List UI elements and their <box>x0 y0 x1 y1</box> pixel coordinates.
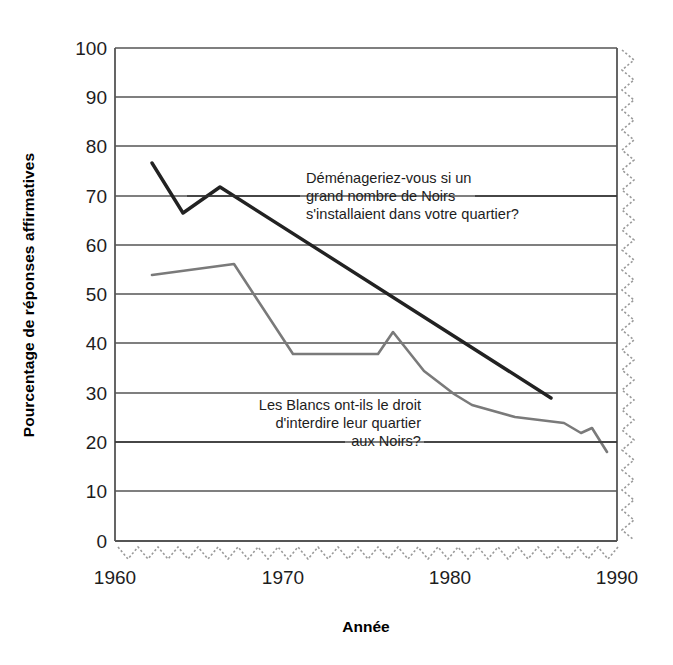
y-axis-title: Pourcentage de réponses affirmatives <box>20 153 37 437</box>
y-tick-20: 20 <box>86 432 107 453</box>
y-tick-80: 80 <box>86 136 107 157</box>
y-tick-0: 0 <box>96 531 107 552</box>
x-tick-1980: 1980 <box>429 567 471 588</box>
y-tick-40: 40 <box>86 333 107 354</box>
x-tick-1960: 1960 <box>94 567 136 588</box>
x-tick-1970: 1970 <box>262 567 304 588</box>
annotation-top-line2: grand nombre de Noirs <box>306 188 455 204</box>
x-tick-1990: 1990 <box>596 567 638 588</box>
x-axis-title: Année <box>342 618 390 635</box>
y-tick-30: 30 <box>86 383 107 404</box>
y-tick-90: 90 <box>86 87 107 108</box>
y-tick-10: 10 <box>86 481 107 502</box>
annotation-bottom-line3: aux Noirs? <box>351 433 421 449</box>
y-tick-70: 70 <box>86 186 107 207</box>
y-tick-50: 50 <box>86 284 107 305</box>
y-tick-60: 60 <box>86 235 107 256</box>
y-tick-100: 100 <box>75 38 107 59</box>
chart-figure: 100 90 80 70 60 50 40 30 20 10 0 1960 19… <box>0 0 673 665</box>
annotation-bottom-line2: d'interdire leur quartier <box>275 415 421 431</box>
annotation-top-line3: s'installaient dans votre quartier? <box>306 206 519 222</box>
annotation-top-line1: Déménageriez-vous si un <box>306 170 471 186</box>
annotation-bottom-line1: Les Blancs ont-ils le droit <box>259 397 421 413</box>
